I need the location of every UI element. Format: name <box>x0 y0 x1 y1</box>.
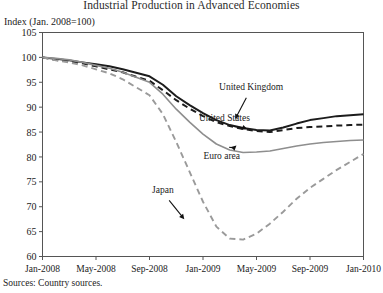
y-tick-label-90: 90 <box>27 102 37 113</box>
y-tick-label-80: 80 <box>27 152 37 163</box>
y-tick-label-65: 65 <box>27 226 37 237</box>
y-tick-label-105: 105 <box>22 27 37 38</box>
x-tick-label-May-2009: May-2009 <box>237 264 277 274</box>
x-tick-label-Sep-2008: Sep-2008 <box>131 264 168 274</box>
x-tick-label-May-2008: May-2008 <box>76 264 116 274</box>
series-label-united-states: United States <box>199 113 250 123</box>
x-tick-label-Jan-2010: Jan-2010 <box>346 264 381 274</box>
annotation-leader <box>169 200 182 216</box>
y-tick-label-75: 75 <box>27 176 37 187</box>
x-tick-label-Jan-2008: Jan-2008 <box>25 264 60 274</box>
y-tick-label-100: 100 <box>22 52 37 63</box>
plot-frame <box>43 33 364 257</box>
series-label-japan: Japan <box>152 185 174 195</box>
y-tick-label-95: 95 <box>27 77 37 88</box>
y-tick-label-70: 70 <box>27 201 37 212</box>
chart-page: Industrial Production in Advanced Econom… <box>0 0 383 293</box>
chart-plot: 6065707580859095100105Jan-2008May-2008Se… <box>0 0 383 293</box>
series-label-euro-area: Euro area <box>203 151 240 161</box>
series-label-united-kingdom: United Kingdom <box>219 82 284 92</box>
y-tick-label-85: 85 <box>27 127 37 138</box>
series-line-euro-area <box>43 57 364 152</box>
y-tick-label-60: 60 <box>27 251 37 262</box>
x-tick-label-Jan-2009: Jan-2009 <box>186 264 221 274</box>
x-tick-label-Sep-2009: Sep-2009 <box>292 264 329 274</box>
series-line-japan <box>43 57 364 239</box>
source-note: Sources: Country sources. <box>3 278 102 288</box>
